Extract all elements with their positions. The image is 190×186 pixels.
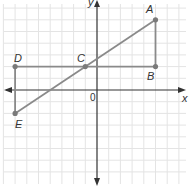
point-a xyxy=(153,17,158,22)
point-d xyxy=(13,64,18,69)
point-label-c: C xyxy=(77,52,85,64)
x-axis-label: x xyxy=(181,92,188,104)
axes: x y 0 xyxy=(4,0,188,186)
point-label-b: B xyxy=(147,70,154,82)
y-axis-label: y xyxy=(87,0,95,8)
point-label-d: D xyxy=(14,52,22,64)
origin-label: 0 xyxy=(90,92,96,103)
y-axis-down-arrow-icon xyxy=(94,178,100,186)
coordinate-plane: x y 0 A B C D E xyxy=(0,0,190,186)
point-b xyxy=(153,64,158,69)
point-c xyxy=(83,64,88,69)
point-label-a: A xyxy=(145,3,153,15)
point-e xyxy=(13,111,18,116)
y-axis-up-arrow-icon xyxy=(94,0,100,7)
point-label-e: E xyxy=(15,118,23,130)
x-axis-left-arrow-icon xyxy=(4,87,12,93)
